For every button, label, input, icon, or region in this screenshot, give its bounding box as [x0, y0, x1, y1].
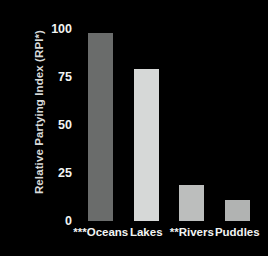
x-axis-tick-label: Puddles [215, 226, 260, 239]
x-axis-tick-label: Lakes [130, 226, 163, 239]
bar-series [76, 29, 258, 221]
bar [134, 69, 159, 221]
y-axis-tick-label: 50 [38, 119, 72, 132]
bar-chart: Relative Partying Index (RPI*) 100755025… [0, 0, 268, 256]
y-axis-tick-label: 75 [38, 71, 72, 84]
bar [225, 200, 250, 221]
y-axis-tick-labels: 1007550250 [38, 0, 72, 256]
bar [179, 185, 204, 221]
y-axis-tick-label: 100 [38, 23, 72, 36]
x-axis-tick-label: **Rivers [170, 226, 214, 239]
bar [88, 33, 113, 221]
x-axis-tick-label: ***Oceans [73, 226, 128, 239]
x-axis-tick-labels: ***OceansLakes**RiversPuddles [60, 226, 268, 246]
plot-area [76, 29, 258, 221]
y-axis-tick-label: 25 [38, 167, 72, 180]
